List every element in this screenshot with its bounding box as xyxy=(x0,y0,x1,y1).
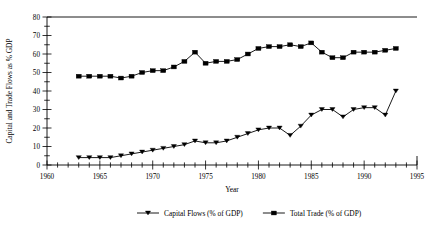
marker-square xyxy=(288,43,293,47)
marker-square xyxy=(76,74,81,78)
legend-label: Capital Flows (% of GDP) xyxy=(164,209,243,218)
y-tick-label: 10 xyxy=(33,143,41,151)
chart-figure: 01020304050607080 1960196519701975198019… xyxy=(0,0,448,232)
x-tick-label: 1995 xyxy=(410,173,425,181)
marker-square xyxy=(277,45,282,49)
chart-legend: Capital Flows (% of GDP)Total Trade (% o… xyxy=(137,209,362,218)
marker-square xyxy=(203,61,208,65)
marker-square xyxy=(372,50,377,54)
marker-triangle-down xyxy=(288,133,293,137)
marker-square xyxy=(97,74,102,78)
y-tick-label: 80 xyxy=(33,14,41,22)
marker-square xyxy=(298,45,303,49)
marker-square xyxy=(224,59,229,63)
marker-square xyxy=(309,41,314,45)
marker-square xyxy=(214,59,219,63)
marker-square xyxy=(140,71,145,75)
chart-canvas: 01020304050607080 1960196519701975198019… xyxy=(0,0,448,232)
marker-square xyxy=(383,48,388,52)
y-tick-label: 30 xyxy=(33,106,41,114)
marker-triangle-down xyxy=(393,89,398,93)
y-tick-label: 60 xyxy=(33,51,41,59)
marker-square xyxy=(319,50,324,54)
marker-triangle-down xyxy=(235,135,240,139)
y-tick-label: 20 xyxy=(33,125,41,133)
x-tick-label: 1990 xyxy=(357,173,372,181)
y-axis-title: Capital and Trade Flows as % GDP xyxy=(5,38,14,143)
x-tick-label: 1970 xyxy=(146,173,161,181)
series-capital-flows xyxy=(76,89,398,160)
marker-square xyxy=(193,50,198,54)
marker-square xyxy=(161,69,166,73)
legend-label: Total Trade (% of GDP) xyxy=(290,209,362,218)
series-total-trade xyxy=(76,41,398,80)
y-axis: 01020304050607080 xyxy=(33,14,52,170)
legend-entry-capital-flows[interactable]: Capital Flows (% of GDP) xyxy=(137,209,243,218)
y-tick-label: 40 xyxy=(33,88,41,96)
marker-square xyxy=(271,211,276,215)
marker-square xyxy=(171,65,176,69)
marker-triangle-down xyxy=(245,132,250,136)
marker-square xyxy=(256,47,261,51)
x-tick-label: 1975 xyxy=(198,173,213,181)
marker-square xyxy=(267,45,272,49)
x-axis-title: Year xyxy=(225,185,239,194)
marker-square xyxy=(393,47,398,51)
x-tick-label: 1980 xyxy=(251,173,266,181)
data-series-group xyxy=(76,41,398,160)
x-tick-label: 1960 xyxy=(40,173,55,181)
marker-square xyxy=(362,50,367,54)
legend-entry-total-trade[interactable]: Total Trade (% of GDP) xyxy=(263,209,362,218)
marker-square xyxy=(351,50,356,54)
marker-triangle-down xyxy=(340,115,345,119)
y-tick-label: 70 xyxy=(33,32,41,40)
marker-square xyxy=(87,74,92,78)
y-tick-label: 0 xyxy=(36,162,40,170)
marker-square xyxy=(119,76,124,80)
marker-square xyxy=(341,56,346,60)
marker-square xyxy=(129,74,134,78)
marker-square xyxy=(235,58,240,62)
marker-square xyxy=(108,74,113,78)
x-tick-label: 1965 xyxy=(93,173,108,181)
marker-square xyxy=(182,59,187,63)
marker-square xyxy=(330,56,335,60)
marker-square xyxy=(150,69,155,73)
marker-square xyxy=(245,52,250,56)
y-tick-label: 50 xyxy=(33,69,41,77)
marker-triangle-down xyxy=(383,113,388,117)
x-tick-label: 1985 xyxy=(304,173,319,181)
series-path xyxy=(79,91,396,158)
